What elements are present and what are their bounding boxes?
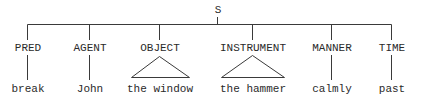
node-label-agent: AGENT <box>73 42 106 54</box>
node-label-time: TIME <box>379 42 405 54</box>
node-label-manner: MANNER <box>312 42 352 54</box>
leaf-object-triangle <box>132 57 190 78</box>
leaf-text-agent: John <box>77 83 103 95</box>
root-label: S <box>215 4 222 16</box>
leaf-text-time: past <box>379 83 405 95</box>
tree-lines <box>0 0 421 98</box>
tree-diagram: S PRED AGENT OBJECT INSTRUMENT MANNER TI… <box>0 0 421 98</box>
leaf-text-pred: break <box>11 83 44 95</box>
node-label-instrument: INSTRUMENT <box>220 42 286 54</box>
leaf-text-object: the window <box>127 83 193 95</box>
leaf-instrument-triangle <box>222 56 285 78</box>
node-label-object: OBJECT <box>140 42 180 54</box>
leaf-text-instrument: the hammer <box>220 83 286 95</box>
leaf-text-manner: calmly <box>312 83 352 95</box>
node-label-pred: PRED <box>15 42 41 54</box>
